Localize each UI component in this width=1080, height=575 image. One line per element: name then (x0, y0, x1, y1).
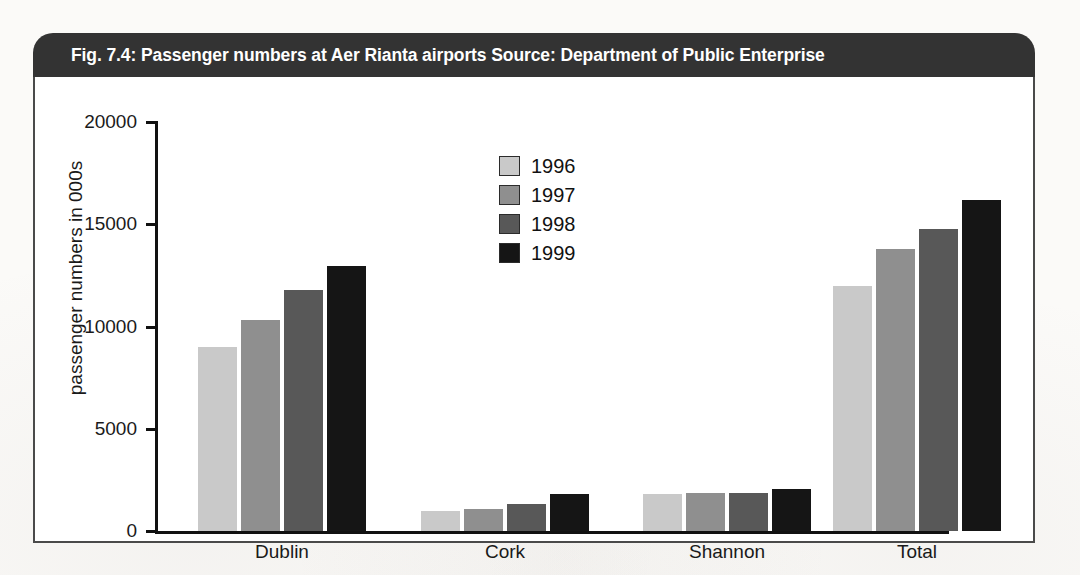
figure-container: Fig. 7.4: Passenger numbers at Aer Riant… (33, 33, 1035, 543)
category-label-total: Total (833, 541, 1001, 563)
legend-swatch-1997 (499, 185, 520, 205)
legend-swatch-1996 (499, 156, 520, 176)
legend-item-1999: 1999 (499, 240, 576, 266)
bar-cork-1999 (550, 494, 589, 531)
bar-shannon-1996 (643, 494, 682, 531)
legend-label-1997: 1997 (531, 185, 576, 205)
bar-dublin-1998 (284, 290, 323, 531)
legend-swatch-1999 (499, 243, 520, 263)
chart-legend: 1996199719981999 (499, 153, 576, 269)
legend-item-1997: 1997 (499, 182, 576, 208)
bar-total-1999 (962, 200, 1001, 531)
bar-cork-1996 (421, 511, 460, 531)
legend-label-1998: 1998 (531, 214, 576, 234)
legend-label-1999: 1999 (531, 243, 576, 263)
category-label-dublin: Dublin (198, 541, 366, 563)
bar-cork-1997 (464, 509, 503, 531)
bar-total-1997 (876, 249, 915, 531)
legend-item-1996: 1996 (499, 153, 576, 179)
bar-cork-1998 (507, 504, 546, 531)
bar-total-1998 (919, 229, 958, 531)
bar-shannon-1999 (772, 489, 811, 531)
plot-area: passenger numbers in 000s 05000100001500… (33, 55, 1035, 543)
legend-swatch-1998 (499, 214, 520, 234)
bar-shannon-1997 (686, 493, 725, 531)
category-label-cork: Cork (421, 541, 589, 563)
bars-layer (33, 55, 1035, 543)
bar-dublin-1997 (241, 320, 280, 531)
legend-item-1998: 1998 (499, 211, 576, 237)
category-label-shannon: Shannon (643, 541, 811, 563)
bar-shannon-1998 (729, 493, 768, 531)
bar-dublin-1996 (198, 347, 237, 531)
bar-dublin-1999 (327, 266, 366, 531)
legend-label-1996: 1996 (531, 156, 576, 176)
bar-total-1996 (833, 286, 872, 531)
